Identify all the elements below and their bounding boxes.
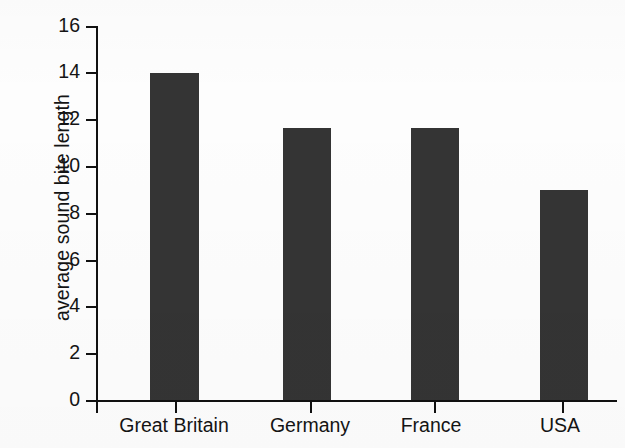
x-tick-3 [434, 402, 436, 413]
y-tick-label-0: 0 [40, 390, 80, 410]
y-tick-label-12-wrap: 12 [32, 109, 80, 129]
y-tick-8 [86, 213, 96, 215]
x-tick-2 [310, 402, 312, 413]
y-tick-14 [86, 72, 96, 74]
y-tick-label-10: 10 [40, 156, 80, 176]
y-tick-label-16: 16 [40, 16, 80, 36]
y-tick-label-14-wrap: 14 [32, 62, 80, 82]
y-tick-label-16-wrap: 16 [32, 16, 80, 36]
x-label-france: France [371, 414, 491, 437]
bar-chart-figure: average sound bite length 16 14 12 10 8 … [0, 0, 625, 448]
y-tick-label-4: 4 [40, 296, 80, 316]
y-tick-10 [86, 166, 96, 168]
plot-area: 16 14 12 10 8 6 4 2 0 [0, 0, 625, 448]
y-tick-0 [86, 400, 96, 402]
x-label-germany: Germany [240, 414, 380, 437]
y-tick-label-6: 6 [40, 250, 80, 270]
y-tick-label-0-wrap: 0 [32, 390, 80, 410]
y-tick-label-4-wrap: 4 [32, 296, 80, 316]
bar-france [411, 128, 459, 400]
bar-usa [540, 190, 588, 400]
y-tick-label-10-wrap: 10 [32, 156, 80, 176]
y-axis-spine [96, 26, 98, 401]
x-tick-4 [562, 402, 564, 413]
y-tick-16 [86, 26, 96, 28]
y-tick-6 [86, 260, 96, 262]
bar-great-britain [150, 73, 199, 400]
y-tick-label-12: 12 [40, 109, 80, 129]
y-tick-label-8: 8 [40, 203, 80, 223]
bar-germany [283, 128, 331, 400]
y-tick-label-2-wrap: 2 [32, 343, 80, 363]
y-tick-12 [86, 119, 96, 121]
x-label-usa: USA [505, 414, 615, 437]
y-tick-label-6-wrap: 6 [32, 250, 80, 270]
x-label-great-britain: Great Britain [104, 414, 244, 437]
y-tick-label-8-wrap: 8 [32, 203, 80, 223]
y-tick-2 [86, 353, 96, 355]
x-tick-0 [96, 402, 98, 413]
y-tick-label-2: 2 [40, 343, 80, 363]
x-tick-1 [175, 402, 177, 413]
y-tick-label-14: 14 [40, 62, 80, 82]
y-tick-4 [86, 306, 96, 308]
